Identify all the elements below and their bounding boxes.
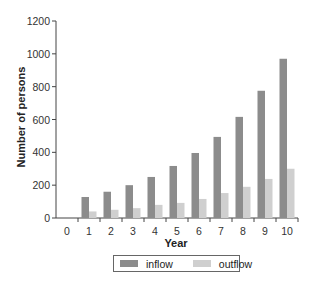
legend-label-outflow: outflow (219, 258, 252, 270)
x-tick-label: 3 (122, 225, 144, 237)
bar-inflow (148, 177, 156, 218)
x-tick-label: 7 (210, 225, 232, 237)
bar-outflow (243, 187, 251, 218)
x-tick-label: 1 (78, 225, 100, 237)
bar-outflow (177, 203, 185, 218)
bar-inflow (104, 192, 112, 218)
x-tick-label: 9 (254, 225, 276, 237)
bar-chart: 020040060080010001200 012345678910 Numbe… (0, 0, 312, 288)
x-tick-label: 2 (100, 225, 122, 237)
bar-outflow (287, 169, 295, 218)
x-tick-label: 8 (232, 225, 254, 237)
y-tick-label: 1000 (16, 48, 50, 60)
x-tick-label: 4 (144, 225, 166, 237)
y-tick-label: 1200 (16, 15, 50, 27)
bar-inflow (82, 197, 90, 218)
y-tick-label: 0 (16, 212, 50, 224)
legend-label-inflow: inflow (146, 258, 173, 270)
legend-item-outflow: outflow (187, 258, 252, 270)
x-axis-label: Year (146, 237, 206, 249)
bar-inflow (236, 117, 244, 218)
bar-outflow (265, 179, 273, 218)
bar-inflow (258, 91, 266, 218)
legend: inflow outflow (113, 255, 240, 272)
bar-outflow (199, 199, 207, 218)
bar-outflow (133, 208, 141, 218)
bar-inflow (192, 153, 200, 218)
x-tick-label: 5 (166, 225, 188, 237)
legend-swatch-inflow (120, 260, 138, 267)
bar-inflow (214, 137, 222, 218)
legend-swatch-outflow (193, 260, 211, 267)
x-tick-label: 6 (188, 225, 210, 237)
bar-outflow (155, 205, 163, 218)
bar-outflow (89, 211, 97, 218)
y-axis-label: Number of persons (15, 62, 27, 172)
bar-inflow (126, 185, 134, 218)
bar-inflow (280, 59, 288, 218)
bar-outflow (111, 210, 119, 218)
x-tick-label: 10 (276, 225, 298, 237)
bar-inflow (170, 166, 178, 218)
y-tick-label: 200 (16, 179, 50, 191)
x-tick-label: 0 (56, 225, 78, 237)
bar-outflow (221, 193, 229, 218)
legend-item-inflow: inflow (114, 258, 173, 270)
